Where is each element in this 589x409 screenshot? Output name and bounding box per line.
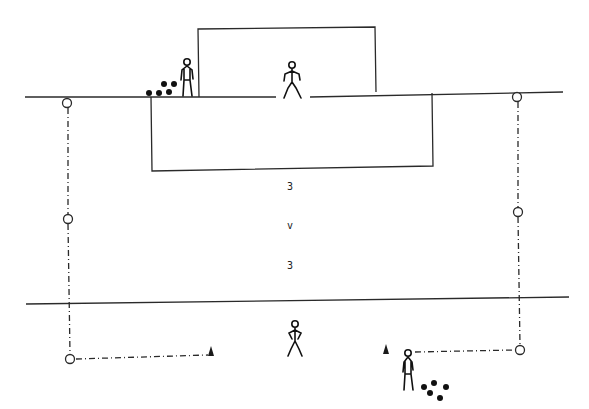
bottom-line (26, 297, 569, 304)
penalty-box (151, 93, 433, 171)
cone-icon (383, 344, 389, 354)
marker-disc (66, 355, 75, 364)
drill-diagram: 3 v 3 (0, 0, 589, 409)
player-server-icon (181, 59, 193, 96)
versus-label: v (287, 220, 293, 231)
marker-disc (513, 93, 522, 102)
goal-line-right (310, 92, 563, 97)
pitch-svg (0, 0, 589, 409)
cone-icon (208, 346, 214, 356)
player-server-icon (403, 350, 413, 390)
ball-group-bottom (421, 380, 449, 401)
right-channel-line (415, 102, 520, 352)
marker-disc (64, 215, 73, 224)
marker-disc (514, 208, 523, 217)
player-defender-icon (288, 321, 302, 356)
goalkeeper-icon (284, 62, 301, 98)
ball-group-top (146, 81, 177, 96)
goal-frame (198, 27, 376, 97)
team-a-label: 3 (287, 181, 293, 192)
marker-disc (63, 99, 72, 108)
left-channel-line (68, 108, 208, 359)
marker-disc (516, 346, 525, 355)
team-b-label: 3 (287, 260, 293, 271)
